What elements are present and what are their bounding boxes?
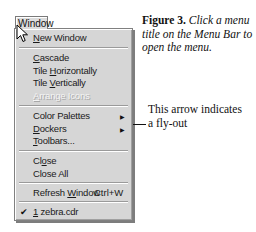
figure-label: Figure 3. (142, 14, 186, 26)
shortcut-ctrl-w: Ctrl+W (94, 187, 123, 199)
menu-separator (19, 105, 128, 107)
menu-item-close-all[interactable]: Close All (33, 168, 68, 180)
callout-leader-line (133, 124, 146, 125)
menu-separator (19, 201, 128, 203)
menu-separator (19, 150, 128, 152)
menu-separator (19, 182, 128, 184)
menu-item-arrange-icons: Arrange Icons (33, 90, 90, 102)
menu-item-refresh-window[interactable]: Refresh Window (33, 187, 100, 199)
figure-caption: Figure 3. Click a menu title on the Menu… (142, 14, 254, 55)
menu-item-cascade[interactable]: Cascade (33, 52, 69, 64)
flyout-arrow-icon: ▶ (120, 126, 125, 133)
menu-item-zebra-cdr[interactable]: 1 zebra.cdr (33, 206, 78, 218)
flyout-callout-text: This arrow indicates a fly-out (148, 103, 248, 130)
menu-item-tile-horizontally[interactable]: Tile Horizontally (33, 65, 97, 77)
flyout-arrow-icon: ▶ (120, 113, 125, 120)
menu-item-toolbars[interactable]: Toolbars... (33, 135, 75, 147)
menu-item-close[interactable]: Close (33, 155, 56, 167)
menu-item-dockers[interactable]: Dockers (33, 123, 66, 135)
menu-item-new-window[interactable]: New Window (33, 32, 86, 44)
checkmark-icon: ✔ (20, 206, 28, 218)
menu-item-color-palettes[interactable]: Color Palettes (33, 110, 90, 122)
menu-item-tile-vertically[interactable]: Tile Vertically (33, 77, 86, 89)
window-menu-dropdown: New Window Cascade Tile Horizontally Til… (14, 28, 133, 221)
mouse-pointer-icon (16, 24, 30, 44)
menu-separator (19, 47, 128, 49)
